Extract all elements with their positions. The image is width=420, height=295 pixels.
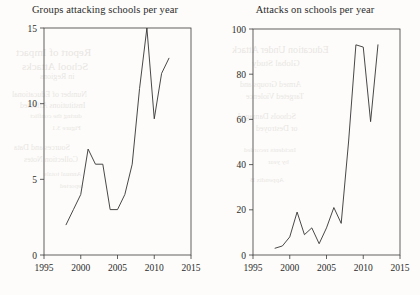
y-axis-tick-label: 10	[28, 99, 38, 109]
x-axis-tick-label: 1995	[244, 263, 263, 273]
x-axis-tick-label: 2015	[182, 263, 201, 273]
x-axis-tick-label: 2000	[71, 263, 90, 273]
y-axis-tick-label: 100	[232, 25, 247, 35]
chart-panel-groups-attacking-schools: Groups attacking schools per year 051015…	[0, 0, 210, 295]
y-axis-tick-label: 5	[32, 175, 37, 185]
x-axis-tick-label: 2000	[280, 263, 299, 273]
plot-area-right: 02040608010019952000200520102015	[210, 0, 420, 295]
y-axis-tick-label: 15	[28, 24, 38, 34]
x-axis-tick-label: 1995	[35, 263, 54, 273]
chart-panel-attacks-on-schools: Attacks on schools per year 020406080100…	[210, 0, 420, 295]
y-axis-tick-label: 80	[237, 70, 247, 80]
x-axis-tick-label: 2005	[108, 263, 127, 273]
x-axis-tick-label: 2010	[145, 263, 164, 273]
y-axis-tick-label: 60	[237, 115, 247, 125]
data-series-line	[275, 45, 378, 248]
y-axis-tick-label: 40	[237, 160, 247, 170]
plot-frame	[44, 28, 191, 255]
plot-area-left: 05101519952000200520102015	[0, 0, 210, 295]
y-axis-tick-label: 0	[241, 251, 246, 261]
plot-frame	[253, 29, 400, 255]
x-axis-tick-label: 2015	[391, 263, 410, 273]
x-axis-tick-label: 2010	[354, 263, 373, 273]
data-series-line	[66, 28, 169, 225]
x-axis-tick-label: 2005	[317, 263, 336, 273]
figure-container: Report of ImpactSchool Attacksin Regions…	[0, 0, 420, 295]
y-axis-tick-label: 20	[237, 205, 247, 215]
y-axis-tick-label: 0	[32, 251, 37, 261]
